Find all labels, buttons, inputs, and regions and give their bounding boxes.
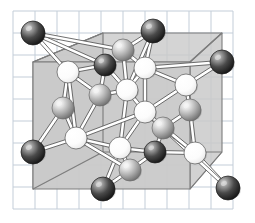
atom-sphere [179, 99, 201, 121]
atom-sphere [141, 19, 165, 43]
atom-sphere [175, 74, 197, 96]
atom-sphere [119, 159, 141, 181]
atom-sphere [216, 176, 240, 200]
atom-sphere [91, 177, 115, 201]
atom-sphere [89, 84, 111, 106]
atom-sphere [116, 79, 138, 101]
atom-sphere [94, 54, 116, 76]
atom-sphere [21, 21, 45, 45]
figure-canvas [0, 0, 255, 223]
atom-sphere [112, 39, 134, 61]
atom-sphere [144, 141, 166, 163]
atom-sphere [57, 61, 79, 83]
atom-sphere [184, 142, 206, 164]
atom-sphere [152, 117, 174, 139]
atom-sphere [65, 127, 87, 149]
crystal-structure-svg [0, 0, 255, 223]
atom-sphere [134, 101, 156, 123]
atom-sphere [109, 137, 131, 159]
atom-sphere [52, 97, 74, 119]
atom-sphere [134, 57, 156, 79]
atom-sphere [21, 140, 45, 164]
atom-sphere [210, 50, 234, 74]
